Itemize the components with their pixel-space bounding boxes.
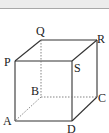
vertex-label-a: A [3, 115, 12, 127]
vertex-label-d: D [67, 123, 76, 133]
vertex-label-q: Q [36, 25, 45, 37]
vertex-label-s: S [74, 62, 81, 74]
vertex-label-p: P [4, 56, 11, 68]
vertex-label-r: R [97, 33, 105, 45]
vertex-label-c: C [98, 92, 106, 104]
visible-edges [15, 40, 97, 121]
vertex-label-b: B [31, 85, 39, 97]
cube-diagram [0, 0, 109, 133]
